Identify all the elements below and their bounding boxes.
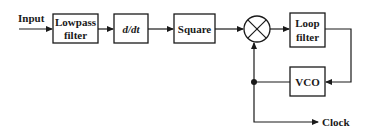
clock-output-label: Clock [322, 116, 350, 128]
arrow-loopfilter-to-vco [325, 29, 351, 82]
vco-label: VCO [295, 76, 320, 88]
loop-filter-block: Loop filter [290, 13, 325, 47]
ddt-label: d/dt [122, 23, 140, 35]
square-label: Square [178, 23, 212, 35]
multiplier-icon [244, 16, 270, 42]
pll-clock-recovery-diagram: Input Lowpass filter d/dt Square Loop fi… [0, 0, 373, 131]
lowpass-label-line1: Lowpass [55, 16, 97, 28]
loopfilter-label-line1: Loop [295, 17, 319, 29]
vco-block: VCO [290, 67, 325, 96]
loopfilter-label-line2: filter [296, 31, 319, 43]
square-block: Square [174, 14, 215, 43]
lowpass-filter-block: Lowpass filter [53, 14, 98, 43]
differentiator-block: d/dt [114, 14, 148, 43]
input-label: Input [18, 12, 45, 24]
lowpass-label-line2: filter [64, 29, 87, 41]
